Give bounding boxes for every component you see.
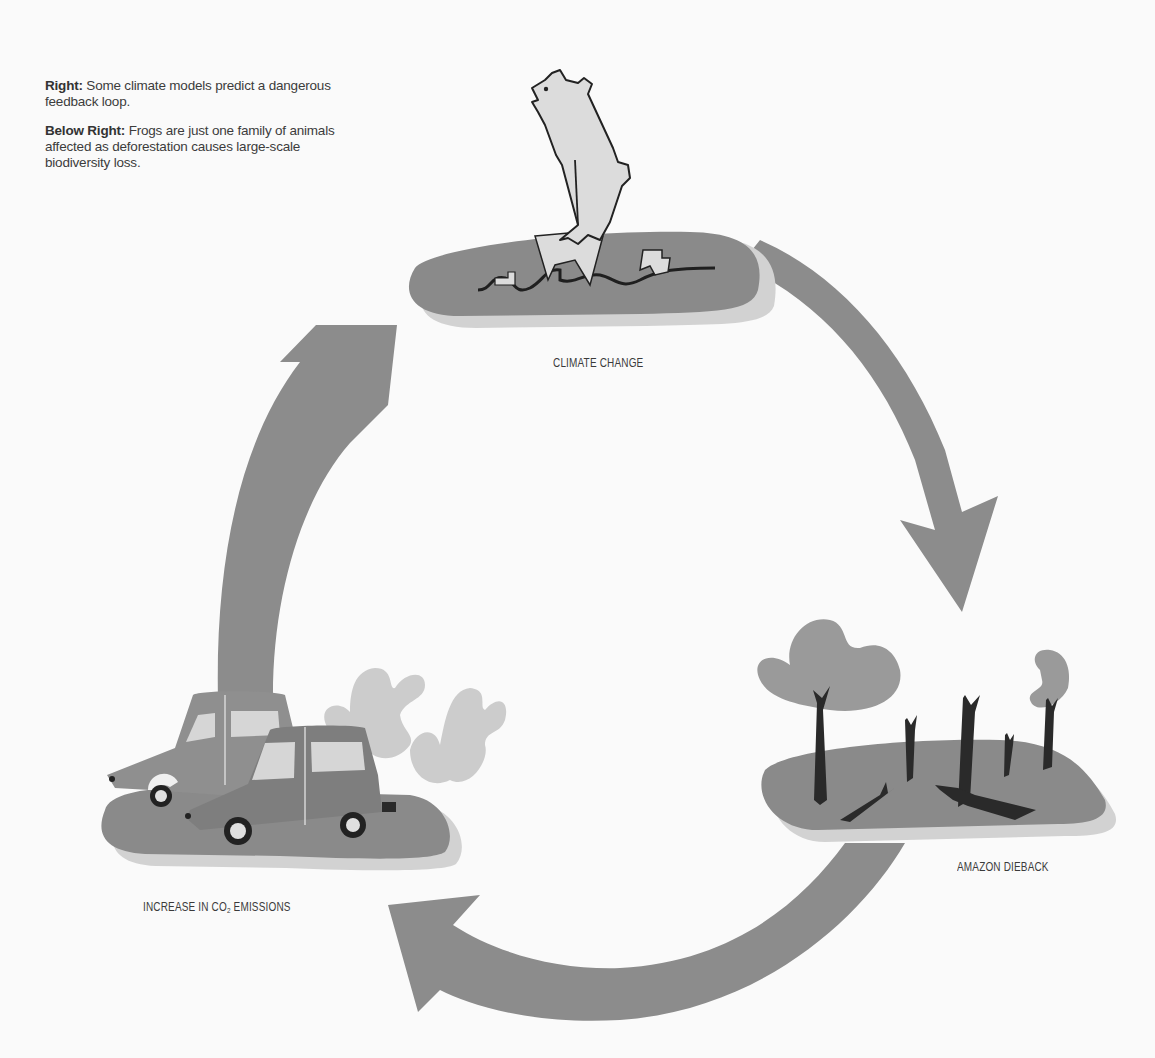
node-label-co2-emissions: INCREASE IN CO2 EMISSIONS	[143, 900, 291, 915]
co2-emissions-node	[101, 668, 506, 870]
tree-foliage-icon	[757, 619, 900, 711]
tree-foliage-icon	[1030, 650, 1069, 708]
climate-change-node	[409, 70, 776, 328]
node-label-climate-change: CLIMATE CHANGE	[553, 356, 643, 370]
bear-eye-icon	[544, 87, 548, 91]
node-label-amazon-dieback: AMAZON DIEBACK	[957, 860, 1049, 874]
arrow-co2-to-climate	[218, 325, 397, 700]
arrow-climate-to-amazon	[740, 240, 998, 612]
exhaust-smoke-icon	[410, 688, 506, 783]
arrow-amazon-to-co2	[388, 843, 905, 1021]
amazon-dieback-node	[757, 619, 1116, 842]
polar-bear-icon	[532, 70, 630, 244]
